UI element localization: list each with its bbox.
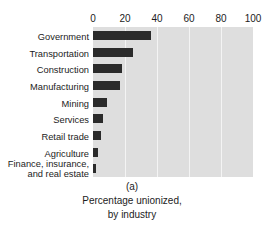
y-category-label: Transportation — [29, 49, 89, 59]
bar — [93, 131, 101, 140]
x-tick-label: 20 — [119, 12, 130, 25]
bar — [93, 164, 96, 173]
caption-line-2: by industry — [0, 208, 264, 222]
bar — [93, 148, 98, 157]
y-category-label: Finance, insurance,and real estate — [1, 159, 89, 179]
y-category-label: Manufacturing — [30, 82, 89, 92]
y-category-label: Retail trade — [41, 132, 89, 142]
y-category-label: Mining — [62, 99, 89, 109]
gridline — [157, 27, 158, 177]
x-tick-label: 100 — [245, 12, 262, 25]
x-axis-tick-labels: 020406080100 — [93, 12, 253, 26]
y-axis-category-labels: GovernmentTransportationConstructionManu… — [0, 27, 91, 177]
gridline — [221, 27, 222, 177]
figure-caption: (a) Percentage unionized, by industry — [0, 180, 264, 222]
y-category-label: Government — [38, 32, 89, 42]
y-category-label: Agriculture — [45, 149, 89, 159]
caption-line-1: Percentage unionized, — [0, 194, 264, 208]
x-tick-label: 0 — [90, 12, 96, 25]
panel-letter: (a) — [0, 180, 264, 194]
gridline — [189, 27, 190, 177]
bar-chart: 020406080100 GovernmentTransportationCon… — [0, 0, 264, 200]
y-category-label: Services — [53, 115, 89, 125]
x-tick-label: 40 — [151, 12, 162, 25]
x-tick-label: 60 — [183, 12, 194, 25]
bar — [93, 31, 151, 40]
bar — [93, 98, 107, 107]
bar — [93, 114, 103, 123]
bar — [93, 64, 122, 73]
x-tick-label: 80 — [215, 12, 226, 25]
bar — [93, 48, 133, 57]
plot-area — [93, 27, 253, 177]
y-category-label: Construction — [37, 65, 89, 75]
bar — [93, 81, 120, 90]
